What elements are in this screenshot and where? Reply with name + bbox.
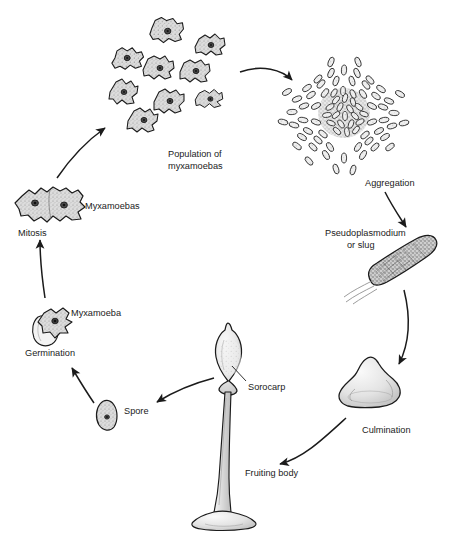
label-myxamoeba: Myxamoeba [71, 308, 122, 318]
label-population-line2: myxamoebas [168, 161, 223, 171]
spore-group [96, 400, 117, 430]
label-sorocarp: Sorocarp [248, 382, 285, 392]
label-spore: Spore [124, 406, 149, 416]
label-mitosis: Mitosis [18, 228, 47, 238]
label-population-line1: Population of [168, 149, 222, 159]
life-cycle-diagram: Population of myxamoebas [0, 0, 455, 550]
label-germination: Germination [25, 348, 75, 358]
label-culmination: Culmination [362, 425, 411, 435]
label-pseudoplasmodium-line2: or slug [347, 240, 375, 250]
label-myxamoebas: Myxamoebas [85, 201, 140, 211]
label-aggregation: Aggregation [365, 178, 415, 188]
label-fruiting-body: Fruiting body [245, 468, 299, 478]
label-pseudoplasmodium-line1: Pseudoplasmodium [325, 228, 406, 238]
